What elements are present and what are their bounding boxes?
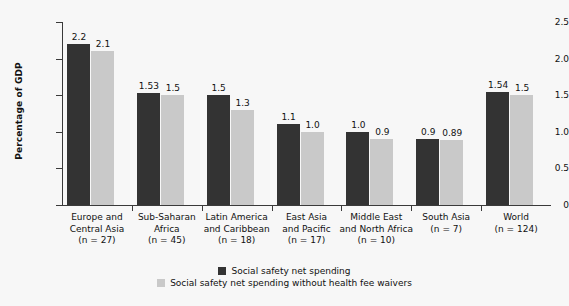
- x-tick-mark: [481, 206, 482, 211]
- bar-value-label: 1.5: [502, 83, 542, 93]
- bar-spending: [486, 92, 509, 205]
- bar-spending: [207, 95, 230, 205]
- bar-value-label: 0.9: [362, 127, 402, 137]
- bar-chart: Percentage of GDP 00.51.01.52.02.5 2.22.…: [0, 0, 569, 306]
- x-category-label: World(n = 124): [473, 212, 559, 235]
- bar-spending-no-waivers: [440, 140, 463, 205]
- bar-group: 1.51.3: [202, 22, 272, 205]
- plot-area: 2.22.11.531.51.51.31.11.01.00.90.90.891.…: [62, 22, 551, 205]
- x-tick-mark: [132, 206, 133, 211]
- bar-spending-no-waivers: [370, 139, 393, 205]
- x-axis-line: [62, 205, 551, 206]
- bar-spending: [416, 139, 439, 205]
- legend-label: Social safety net spending: [231, 266, 350, 276]
- x-category-line: World: [473, 212, 559, 224]
- bar-spending: [137, 93, 160, 205]
- bar-spending-no-waivers: [301, 132, 324, 205]
- bar-group: 2.22.1: [62, 22, 132, 205]
- bar-value-label: 2.1: [83, 39, 123, 49]
- bar-value-label: 1.3: [223, 98, 263, 108]
- legend-item[interactable]: Social safety net spending without healt…: [157, 278, 412, 288]
- bar-group: 0.90.89: [411, 22, 481, 205]
- x-tick-mark: [202, 206, 203, 211]
- y-axis-title: Percentage of GDP: [14, 26, 24, 196]
- bar-value-label: 0.89: [432, 128, 472, 138]
- x-tick-mark: [411, 206, 412, 211]
- x-category-line: (n = 10): [333, 235, 419, 247]
- bar-group: 1.00.9: [341, 22, 411, 205]
- bar-value-label: 1.5: [199, 83, 239, 93]
- bar-group: 1.531.5: [132, 22, 202, 205]
- bar-spending: [346, 132, 369, 205]
- legend-item[interactable]: Social safety net spending: [218, 266, 350, 276]
- x-tick-mark: [341, 206, 342, 211]
- bar-group: 1.541.5: [481, 22, 551, 205]
- bar-spending-no-waivers: [510, 95, 533, 205]
- legend-swatch-icon: [157, 279, 165, 287]
- bar-spending: [67, 44, 90, 205]
- chart-legend: Social safety net spendingSocial safety …: [0, 266, 569, 288]
- bar-spending: [277, 124, 300, 205]
- bar-value-label: 1.0: [293, 120, 333, 130]
- bar-spending-no-waivers: [161, 95, 184, 205]
- x-category-line: (n = 124): [473, 224, 559, 236]
- bar-spending-no-waivers: [231, 110, 254, 205]
- bar-value-label: 1.5: [153, 83, 193, 93]
- bar-spending-no-waivers: [91, 51, 114, 205]
- bar-group: 1.11.0: [272, 22, 342, 205]
- x-tick-mark: [272, 206, 273, 211]
- legend-label: Social safety net spending without healt…: [170, 278, 412, 288]
- legend-swatch-icon: [218, 267, 226, 275]
